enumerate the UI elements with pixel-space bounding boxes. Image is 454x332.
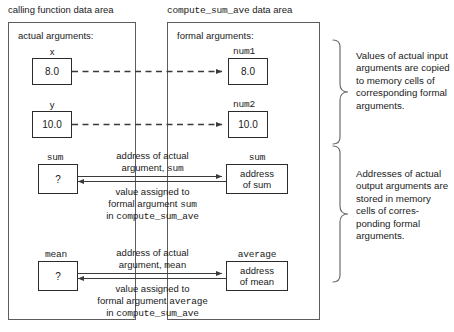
right-cell-label-num2: num2 [222,99,266,110]
annotation-mean-below-line2-mono: average [169,296,208,307]
annotation-mean-below-line2-pre: formal argument [97,295,169,306]
annotation-mean-above-line2: argument, mean [85,259,220,272]
annotation-mean-above-line2-mono: mean [164,260,186,271]
annotation-mean-below-line3-mono: compute_sum_ave [116,308,199,319]
annotation-mean-below-line3-pre: in [106,307,116,318]
annotation-sum-above-line2: argument, sum [85,162,220,175]
right-cell-average-line2: of mean [240,276,274,288]
right-cell-sum-line2: of sum [243,179,272,191]
annotation-sum-above: address of actual argument, sum [85,150,220,174]
left-cell-label-x: x [32,46,72,57]
annotation-mean-below-line1: value assigned to [76,283,229,295]
annotation-mean-below: value assigned to formal argument averag… [76,283,229,320]
right-cell-sum-line1: address [240,168,274,180]
annotation-sum-above-line1: address of actual [85,150,220,162]
brace-top [333,40,348,144]
right-cell-num2: 10.0 [228,111,268,138]
left-cell-x: 8.0 [32,58,72,85]
annotation-mean-below-line2: formal argument average [76,295,229,308]
left-cell-label-mean: mean [30,249,82,260]
left-cell-label-sum: sum [32,152,78,163]
annotation-mean-above-line2-pre: argument, [119,259,164,270]
brace-bottom [333,146,348,282]
right-cell-label-num1: num1 [222,46,266,57]
right-cell-average: address of mean [226,261,288,291]
left-cell-mean: ? [38,261,78,291]
annotation-sum-above-line2-mono: sum [167,163,184,174]
left-cell-sum: ? [38,164,78,194]
annotation-mean-above-line1: address of actual [85,247,220,259]
right-cell-label-sum: sum [226,152,288,163]
annotation-mean-below-line3: in compute_sum_ave [76,307,229,320]
annotation-sum-below-line3-mono: compute_sum_ave [116,211,199,222]
annotation-sum-below-line3: in compute_sum_ave [80,210,225,223]
right-cell-sum: address of sum [226,164,288,194]
annotation-sum-below-line3-pre: in [106,210,116,221]
annotation-sum-below-line2: formal argument sum [80,198,225,211]
annotation-sum-below-line2-mono: sum [180,199,197,210]
annotation-sum-below-line1: value assigned to [80,186,225,198]
annotation-sum-below-line2-pre: formal argument [108,198,180,209]
description-bottom: Addresses of actual output arguments are… [356,168,452,242]
left-cell-y: 10.0 [32,111,72,138]
right-cell-label-average: average [222,249,292,260]
diagram-canvas: calling function data area compute_sum_a… [0,0,454,332]
description-top: Values of actual input arguments are cop… [356,50,452,112]
right-cell-average-line1: address [240,265,274,277]
annotation-mean-above: address of actual argument, mean [85,247,220,271]
left-cell-label-y: y [32,99,72,110]
annotation-sum-below: value assigned to formal argument sum in… [80,186,225,223]
annotation-sum-above-line2-pre: argument, [122,162,167,173]
right-cell-num1: 8.0 [228,58,268,85]
